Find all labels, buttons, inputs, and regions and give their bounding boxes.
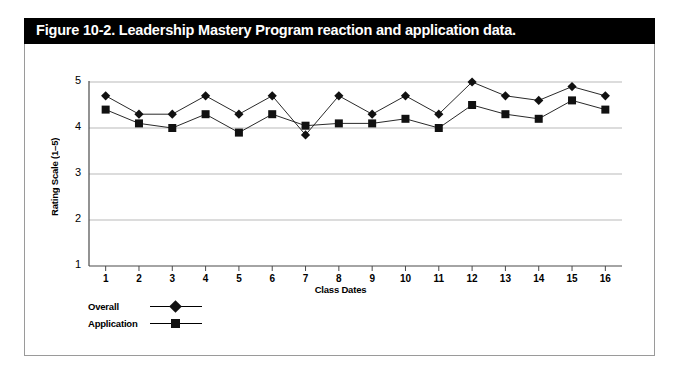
y-axis-tick-label: 3 — [59, 166, 81, 178]
x-axis-tick-label: 7 — [294, 273, 318, 284]
x-axis-tick-label: 9 — [360, 273, 384, 284]
chart-legend: Overall Application — [88, 298, 202, 332]
y-axis-tick-label: 4 — [59, 120, 81, 132]
legend-label-application: Application — [88, 318, 150, 329]
y-axis-tick-label: 2 — [59, 212, 81, 224]
legend-marker-square-icon — [150, 317, 202, 331]
x-axis-tick-label: 1 — [94, 273, 118, 284]
x-axis-tick-label: 2 — [127, 273, 151, 284]
x-axis-tick-label: 3 — [160, 273, 184, 284]
x-axis-tick-label: 16 — [593, 273, 617, 284]
x-axis-tick-label: 6 — [260, 273, 284, 284]
x-axis-tick-label: 15 — [560, 273, 584, 284]
x-axis-tick-label: 5 — [227, 273, 251, 284]
x-axis-tick-label: 13 — [493, 273, 517, 284]
legend-label-overall: Overall — [88, 301, 150, 312]
x-axis-tick-label: 8 — [327, 273, 351, 284]
legend-item-application: Application — [88, 315, 202, 332]
x-axis-tick-label: 4 — [194, 273, 218, 284]
legend-item-overall: Overall — [88, 298, 202, 315]
x-axis-tick-label: 11 — [427, 273, 451, 284]
x-axis-tick-label: 12 — [460, 273, 484, 284]
x-axis-tick-label: 14 — [527, 273, 551, 284]
y-axis-tick-label: 1 — [59, 258, 81, 270]
legend-marker-diamond-icon — [150, 300, 202, 314]
x-axis-tick-label: 10 — [393, 273, 417, 284]
y-axis-tick-label: 5 — [59, 74, 81, 86]
